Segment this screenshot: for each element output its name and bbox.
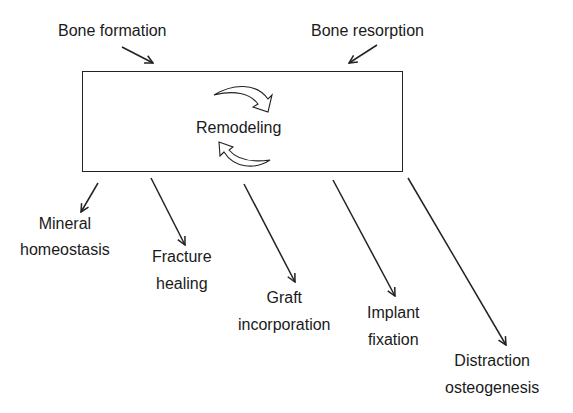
remodeling-label: Remodeling bbox=[196, 114, 281, 141]
mineral-homeostasis-arrow bbox=[81, 183, 98, 212]
output-line1: Mineral bbox=[20, 210, 110, 237]
bone-resorption-arrow bbox=[349, 45, 377, 63]
graft-incorporation-arrow bbox=[244, 184, 295, 282]
output-graft-incorporation: Graft incorporation bbox=[238, 284, 331, 338]
output-mineral-homeostasis: Mineral homeostasis bbox=[20, 210, 110, 263]
output-line1: Distraction bbox=[445, 347, 539, 374]
bone-formation-arrow bbox=[122, 47, 153, 63]
fracture-healing-arrow bbox=[151, 178, 185, 245]
bone-resorption-label: Bone resorption bbox=[311, 17, 424, 44]
bone-formation-label: Bone formation bbox=[58, 17, 167, 44]
output-fracture-healing: Fracture healing bbox=[152, 243, 212, 297]
implant-fixation-arrow bbox=[333, 180, 395, 296]
output-line2: fixation bbox=[367, 326, 419, 353]
output-line1: Fracture bbox=[152, 243, 212, 270]
output-line2: homeostasis bbox=[20, 236, 110, 263]
output-line2: incorporation bbox=[238, 311, 331, 338]
output-distraction-osteogenesis: Distraction osteogenesis bbox=[445, 347, 539, 401]
output-line2: osteogenesis bbox=[445, 374, 539, 401]
output-line1: Graft bbox=[238, 284, 331, 311]
distraction-osteogenesis-arrow bbox=[408, 178, 506, 345]
output-line2: healing bbox=[152, 270, 212, 297]
output-implant-fixation: Implant fixation bbox=[367, 299, 419, 353]
output-line1: Implant bbox=[367, 299, 419, 326]
